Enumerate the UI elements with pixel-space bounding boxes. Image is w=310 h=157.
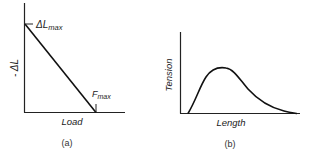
figure: ΔLmax Fmax - ΔL Load (a) Tension Length … <box>0 0 310 157</box>
panel-b: Tension Length (b) <box>163 32 300 149</box>
fmax-label: Fmax <box>92 89 111 100</box>
panel-b-x-label: Length <box>216 117 245 128</box>
panel-b-caption: (b) <box>225 139 236 149</box>
panel-a-x-label: Load <box>61 116 83 127</box>
dlmax-label: ΔLmax <box>35 19 63 32</box>
length-tension-curve <box>188 68 297 114</box>
panel-b-y-label: Tension <box>163 59 174 92</box>
panel-a-data-line <box>25 24 96 113</box>
panel-a-y-label: - ΔL <box>9 59 20 77</box>
panel-a: ΔLmax Fmax - ΔL Load (a) <box>9 3 125 148</box>
panel-a-caption: (a) <box>62 138 73 148</box>
